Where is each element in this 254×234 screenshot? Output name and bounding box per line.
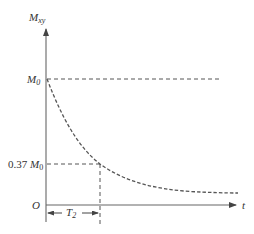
- x-axis-label: t: [242, 199, 246, 211]
- m0-label: M0: [26, 73, 40, 87]
- level-label: 0.37 M0: [8, 158, 43, 172]
- t2-decay-diagram: Mxy M0 0.37 M0 O t T2: [0, 0, 254, 234]
- decay-curve: [47, 79, 238, 193]
- origin-label: O: [32, 199, 40, 211]
- y-axis-label: Mxy: [28, 11, 46, 25]
